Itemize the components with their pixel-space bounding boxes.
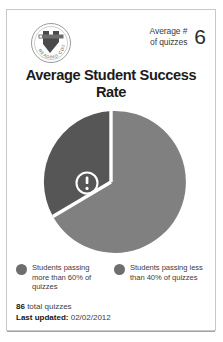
- widget-content: READING COUNTY Average # of quizzes 6 Av…: [7, 20, 215, 320]
- page-title: Average Student Success Rate: [16, 67, 206, 101]
- last-updated-line: Last updated: 02/02/2012: [16, 312, 206, 323]
- average-quizzes-label-line2: of quizzes: [150, 37, 188, 48]
- chart-legend: Students passing more than 60% of quizze…: [16, 263, 206, 292]
- last-updated-label: Last updated:: [16, 313, 68, 322]
- legend-label: Students passing less than 40% of quizze…: [130, 263, 206, 282]
- pie-chart: [16, 107, 206, 259]
- legend-color-swatch: [16, 264, 27, 275]
- county-seal-logo: READING COUNTY: [30, 22, 72, 64]
- legend-item-less-than-40[interactable]: Students passing less than 40% of quizze…: [114, 263, 206, 292]
- legend-color-swatch: [114, 264, 125, 275]
- last-updated-value: 02/02/2012: [71, 313, 111, 322]
- widget-footer: 86 total quizzes Last updated: 02/02/201…: [16, 301, 206, 323]
- legend-item-more-than-60[interactable]: Students passing more than 60% of quizze…: [16, 263, 108, 292]
- total-quizzes-line: 86 total quizzes: [16, 301, 206, 312]
- legend-label: Students passing more than 60% of quizze…: [32, 263, 108, 292]
- widget-header: READING COUNTY Average # of quizzes 6: [16, 20, 206, 64]
- pie-chart-svg: [36, 107, 186, 257]
- total-quizzes-value: 86: [16, 302, 25, 311]
- average-quizzes-value: 6: [194, 26, 206, 47]
- average-quizzes-label-line1: Average #: [150, 26, 188, 37]
- dashboard-widget: READING COUNTY Average # of quizzes 6 Av…: [0, 0, 223, 342]
- total-quizzes-label: total quizzes: [27, 302, 71, 311]
- average-quizzes-label: Average # of quizzes: [150, 26, 188, 47]
- average-quizzes-metric: Average # of quizzes 6: [150, 26, 206, 47]
